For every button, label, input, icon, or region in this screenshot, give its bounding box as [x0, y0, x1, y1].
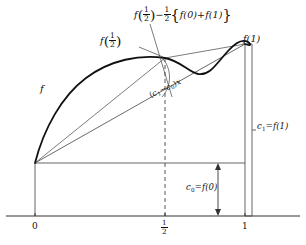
c0-equals-sign: =: [195, 182, 202, 192]
f-half-close-paren: ): [116, 36, 121, 47]
f-half-fraction: 12: [109, 32, 116, 49]
annotation-minus-sign: −: [156, 9, 164, 20]
label-curve-name-f: f: [40, 84, 44, 94]
linear-term-line: [35, 44, 245, 163]
label-c0-equals-f-zero: c0=f(0): [186, 183, 217, 193]
c0-value: f(0): [202, 182, 218, 192]
c1-equals-sign: =: [266, 121, 273, 131]
annotation-sum-term: f(0)+f(1): [180, 9, 223, 20]
annotation-open-brace: {: [171, 10, 180, 21]
c0-arrow-head-bottom: [215, 209, 221, 216]
x-tick-label-zero: 0: [32, 222, 38, 231]
label-f-of-one-half: f(12): [100, 33, 122, 50]
figure-root: f(12)−12{f(0)+f(1)} f(12) f(1) f (c1−c0)…: [0, 0, 306, 245]
annotation-close-paren: ): [150, 10, 155, 21]
c1-value: f(1): [273, 121, 289, 131]
chord-origin-to-half: [35, 58, 165, 163]
annotation-half-coefficient: 12: [164, 6, 171, 23]
annotation-close-brace: }: [223, 10, 232, 21]
x-tick-label-one-half: 12: [161, 220, 168, 236]
label-c1-equals-f-one: c1=f(1): [257, 122, 288, 132]
label-f-of-one: f(1): [243, 34, 260, 44]
x-tick-label-one: 1: [242, 222, 248, 231]
annotation-second-difference: f(12)−12{f(0)+f(1)}: [134, 7, 232, 24]
x-tick-half-fraction: 12: [161, 219, 168, 235]
f-half-leader-line: [139, 47, 163, 57]
c0-arrow-head-top: [215, 163, 221, 170]
annotation-one-half-fraction: 12: [143, 6, 150, 23]
